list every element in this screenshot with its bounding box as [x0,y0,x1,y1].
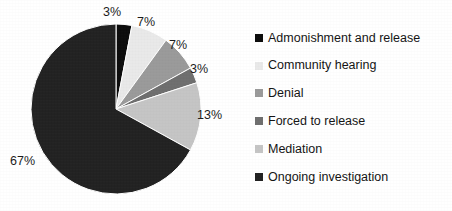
slice-label-community-hearing: 7% [137,15,155,29]
legend-swatch-icon [255,34,263,42]
legend-item-admonishment-and-release: Admonishment and release [255,24,452,52]
legend-item-label: Admonishment and release [268,32,420,45]
legend-item-label: Mediation [268,143,322,156]
slice-label-ongoing-investigation: 67% [10,154,35,168]
legend-swatch-icon [255,145,263,153]
pie-svg [0,0,232,211]
legend-item-label: Denial [268,87,303,100]
slice-label-mediation: 13% [197,108,222,122]
legend-item-mediation: Mediation [255,135,452,163]
chart-legend: Admonishment and releaseCommunity hearin… [255,24,452,191]
legend-swatch-icon [255,62,263,70]
legend-item-ongoing-investigation: Ongoing investigation [255,163,452,191]
slice-label-forced-to-release: 3% [190,62,208,76]
legend-item-community-hearing: Community hearing [255,52,452,80]
legend-item-denial: Denial [255,80,452,108]
legend-item-label: Forced to release [268,115,365,128]
slice-label-denial: 7% [169,38,187,52]
pie-chart-figure: 3% 7% 7% 3% 13% 67% Admonishment and rel… [0,0,452,211]
pie-plot-area: 3% 7% 7% 3% 13% 67% [0,0,232,211]
legend-item-label: Community hearing [268,59,376,72]
slice-label-admonishment-and-release: 3% [103,5,121,19]
legend-swatch-icon [255,173,263,181]
legend-item-forced-to-release: Forced to release [255,107,452,135]
legend-swatch-icon [255,89,263,97]
legend-swatch-icon [255,117,263,125]
legend-item-label: Ongoing investigation [268,171,388,184]
